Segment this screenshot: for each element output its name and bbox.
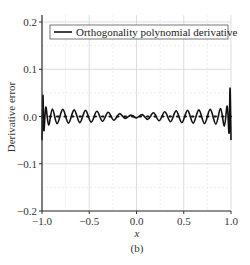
- y-tick-labels: −0.2−0.10.00.10.2: [17, 16, 42, 217]
- svg-text:−0.5: −0.5: [79, 215, 99, 227]
- svg-text:−1.0: −1.0: [32, 215, 52, 227]
- svg-text:1.0: 1.0: [224, 215, 238, 227]
- x-tick-labels: −1.0−0.50.00.51.0: [32, 211, 238, 227]
- legend: Orthogonality polynomial derivative: [50, 25, 237, 39]
- svg-text:0.0: 0.0: [130, 215, 144, 227]
- legend-label: Orthogonality polynomial derivative: [76, 26, 237, 38]
- svg-text:0.2: 0.2: [23, 16, 37, 28]
- svg-text:0.5: 0.5: [177, 215, 191, 227]
- svg-text:0.0: 0.0: [23, 111, 37, 123]
- y-axis-label: Derivative error: [5, 81, 17, 152]
- svg-text:0.1: 0.1: [23, 63, 37, 75]
- x-axis-label: x: [134, 227, 140, 239]
- figure-caption: (b): [131, 242, 144, 255]
- svg-text:−0.1: −0.1: [17, 158, 37, 170]
- grid: [42, 15, 231, 211]
- chart: −0.2−0.10.00.10.2 −1.0−0.50.00.51.0 Orth…: [0, 0, 250, 265]
